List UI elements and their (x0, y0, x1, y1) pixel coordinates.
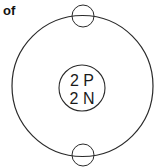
electron-bottom (72, 144, 94, 166)
nucleus-protons-label: 2 P (70, 72, 94, 89)
nucleus-neutrons-label: 2 N (70, 90, 95, 107)
atom-diagram: 2 P 2 N (0, 0, 157, 168)
